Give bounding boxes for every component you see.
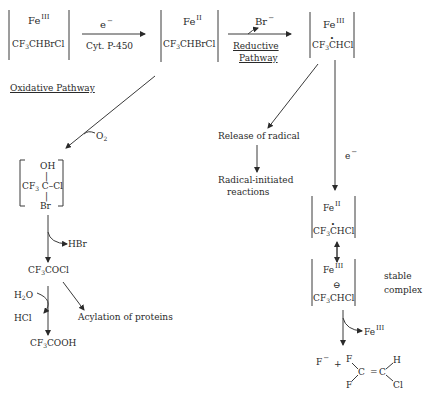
alkene-double-bond: = bbox=[370, 368, 378, 377]
fluoride-ion: F− bbox=[316, 358, 329, 367]
complex-2-metal: FeII bbox=[183, 17, 202, 27]
water-reagent: H2O bbox=[14, 291, 33, 300]
alkene-f-bottom: F bbox=[346, 381, 352, 390]
complex-3-metal: FeIII bbox=[323, 20, 345, 30]
complex-4-metal: FeII bbox=[323, 204, 341, 213]
acylation-label: Acylation of proteins bbox=[78, 313, 173, 322]
alkene-h: H bbox=[393, 356, 401, 365]
alkene-c2: C bbox=[379, 368, 386, 377]
release-of-radical-label: Release of radical bbox=[218, 132, 300, 141]
radical-reactions-label-2: reactions bbox=[227, 188, 269, 197]
stable-complex-label-2: complex bbox=[384, 286, 422, 295]
stable-complex-label: stable bbox=[384, 272, 412, 281]
intermediate-br: Br bbox=[40, 202, 51, 211]
product-cf3cooh: CF3COOH bbox=[30, 339, 76, 348]
hcl-product: HCl bbox=[14, 314, 32, 323]
plus-sign: + bbox=[334, 360, 342, 369]
step-2-bromide: Br− bbox=[255, 17, 274, 27]
product-cf3cocl: CF3COCl bbox=[28, 266, 69, 275]
fe-iii-release: FeIII bbox=[364, 328, 384, 337]
carbanion-charge: ⊖ bbox=[333, 281, 341, 290]
oxidative-pathway-label: Oxidative Pathway bbox=[10, 84, 95, 93]
complex-3-substrate: CF3CHCl bbox=[312, 41, 353, 50]
alkene-f-top: F bbox=[346, 355, 352, 364]
electron-label: e− bbox=[345, 152, 357, 161]
step-1-enzyme: Cyt. P-450 bbox=[86, 42, 133, 51]
bond-vertical: | bbox=[45, 192, 48, 201]
oxygen-reagent: O2 bbox=[96, 132, 107, 141]
complex-4-substrate: CF3CHCl bbox=[313, 227, 354, 236]
hbr-elimination: HBr bbox=[68, 240, 87, 249]
complex-1-substrate: CF3CHBrCl bbox=[12, 40, 64, 49]
complex-5-metal: FeIII bbox=[323, 266, 343, 275]
radical-reactions-label: Radical-initiated bbox=[218, 176, 293, 185]
reductive-pathway-label: Reductive bbox=[233, 42, 279, 51]
complex-1-metal: FeIII bbox=[28, 16, 50, 26]
intermediate-oh: OH bbox=[40, 162, 55, 171]
step-1-electron: e− bbox=[100, 20, 113, 30]
alkene-cl: Cl bbox=[393, 381, 403, 390]
complex-5-substrate: CF3CHCl bbox=[313, 294, 354, 303]
intermediate-core: CF3 C–Cl bbox=[22, 182, 63, 191]
complex-2-substrate: CF3CHBrCl bbox=[163, 40, 215, 49]
alkene-c1: C bbox=[358, 368, 365, 377]
bond-vertical: | bbox=[45, 172, 48, 181]
reductive-pathway-label-2: Pathway bbox=[239, 54, 278, 63]
